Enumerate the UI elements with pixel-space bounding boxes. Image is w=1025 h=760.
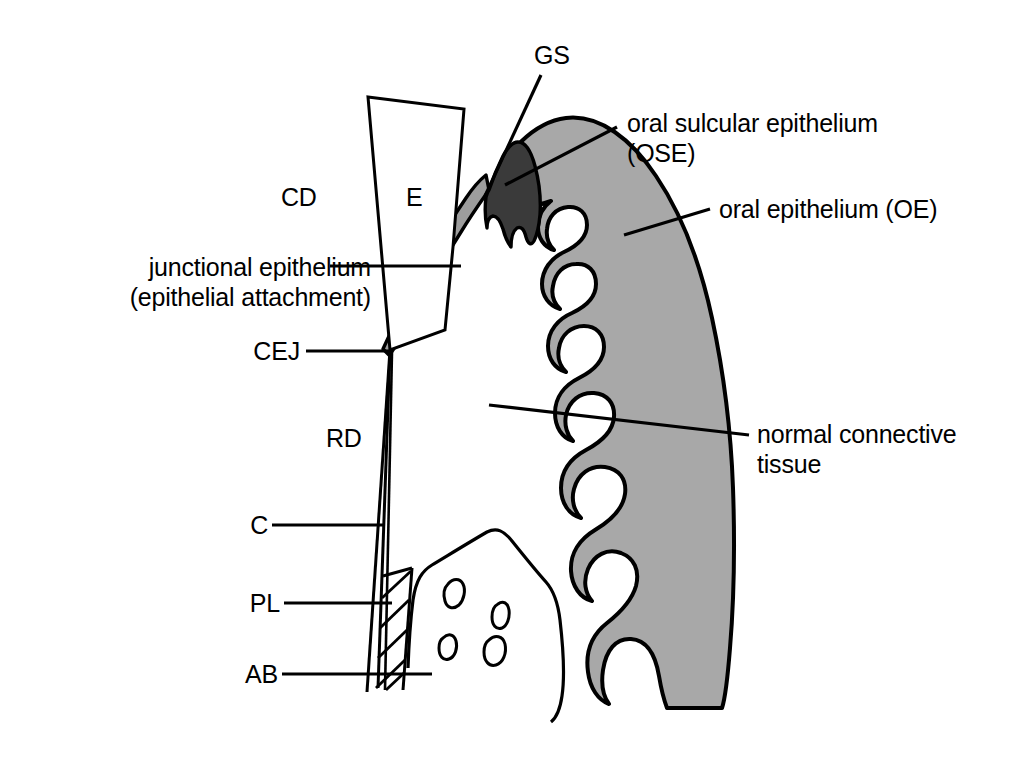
- label-e: E: [406, 182, 422, 212]
- label-c: C: [48, 510, 268, 540]
- label-rd: RD: [326, 423, 362, 453]
- label-cd: CD: [281, 182, 317, 212]
- label-ose-line1: oral sulcular epithelium: [627, 109, 878, 137]
- pdl-hatch-3: [378, 630, 407, 658]
- bone-marrow-space-3: [439, 635, 457, 660]
- label-oral-sulcular-epithelium: oral sulcular epithelium(OSE): [627, 108, 878, 168]
- figure-canvas: GS CD E oral sulcular epithelium(OSE) or…: [0, 0, 1025, 760]
- label-je-line2: (epithelial attachment): [130, 283, 371, 311]
- label-ose-line2: (OSE): [627, 139, 695, 167]
- label-oral-epithelium: oral epithelium (OE): [719, 194, 937, 224]
- label-junctional-epithelium: junctional epithelium(epithelial attachm…: [21, 252, 371, 312]
- bone-marrow-space-4: [484, 637, 506, 666]
- bone-marrow-space-1: [444, 580, 464, 608]
- alveolar-bone-shape: [408, 530, 563, 722]
- label-nct-line2: tissue: [757, 450, 821, 478]
- label-normal-connective-tissue: normal connectivetissue: [757, 419, 956, 479]
- label-gs: GS: [534, 40, 570, 70]
- label-pl: PL: [60, 588, 280, 618]
- enamel-crown-shape: [368, 97, 464, 350]
- label-cej: CEJ: [60, 336, 300, 366]
- label-nct-line1: normal connective: [757, 420, 956, 448]
- oral-sulcular-epithelium-shape: [485, 142, 540, 247]
- label-je-line1: junctional epithelium: [149, 253, 371, 281]
- bone-marrow-space-2: [492, 602, 509, 628]
- label-ab: AB: [58, 659, 278, 689]
